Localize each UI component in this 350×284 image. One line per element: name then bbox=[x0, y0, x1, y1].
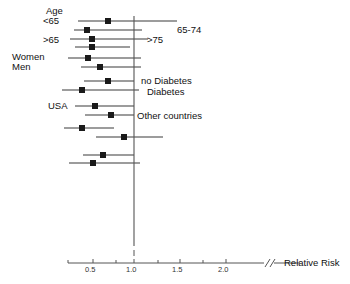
group-label-under65: <65 bbox=[43, 16, 59, 26]
group-label-65-74: 65-74 bbox=[177, 25, 201, 35]
point-estimate-marker bbox=[121, 134, 127, 140]
point-estimate-marker bbox=[89, 44, 95, 50]
group-label-no-diabetes: no Diabetes bbox=[141, 76, 192, 86]
axis-title-relative-risk: Relative Risk bbox=[284, 258, 339, 268]
point-estimate-marker bbox=[92, 103, 98, 109]
group-label-men: Men bbox=[12, 62, 30, 72]
x-tick-label: 2.0 bbox=[218, 266, 228, 274]
point-estimate-marker bbox=[105, 78, 111, 84]
point-estimate-marker bbox=[79, 125, 85, 131]
point-estimate-marker bbox=[79, 87, 85, 93]
group-label-over75: >75 bbox=[147, 35, 163, 45]
x-tick-label: 0.5 bbox=[85, 266, 95, 274]
group-label-over65: >65 bbox=[43, 35, 59, 45]
point-estimate-marker bbox=[97, 64, 103, 70]
point-estimate-marker bbox=[85, 55, 91, 61]
group-label-usa: USA bbox=[48, 101, 68, 111]
point-estimate-marker bbox=[90, 160, 96, 166]
group-label-other-countries: Other countries bbox=[137, 111, 202, 121]
point-estimate-marker bbox=[89, 36, 95, 42]
x-tick-label: 1.0 bbox=[126, 266, 136, 274]
group-label-diabetes: Diabetes bbox=[147, 87, 185, 97]
point-estimate-marker bbox=[84, 27, 90, 33]
point-estimate-marker bbox=[100, 152, 106, 158]
x-tick-label: 1.5 bbox=[172, 266, 182, 274]
footer-strip bbox=[0, 276, 350, 284]
point-estimate-marker bbox=[108, 112, 114, 118]
point-estimate-marker bbox=[105, 18, 111, 24]
